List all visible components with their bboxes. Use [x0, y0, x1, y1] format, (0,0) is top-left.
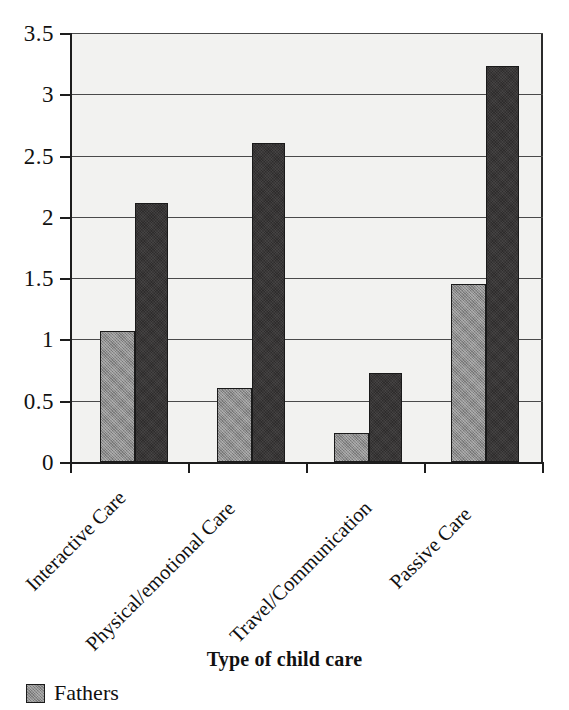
y-tick-mark-2	[60, 217, 70, 219]
x-tick-mark-4	[542, 462, 544, 473]
legend-label-fathers: Fathers	[54, 682, 119, 704]
bar-chart-figure: 3.5 3 2.5 2 1.5 1 0.5 0 Interactive Care…	[0, 0, 569, 710]
gridline-3	[70, 94, 543, 95]
bar-series2-travel-communication	[369, 373, 402, 463]
x-tick-mark-2	[306, 462, 308, 473]
gridline-2-5	[70, 156, 543, 157]
y-tick-label-2-5: 2.5	[24, 145, 54, 168]
x-tick-mark-1	[188, 462, 190, 473]
x-category-label-passive-care: Passive Care	[386, 504, 475, 593]
y-tick-mark-3	[60, 94, 70, 96]
y-tick-label-1-5: 1.5	[24, 267, 54, 290]
x-axis-title: Type of child care	[0, 648, 569, 671]
plot-area	[70, 33, 543, 462]
y-tick-mark-2-5	[60, 156, 70, 158]
y-tick-label-0: 0	[42, 451, 54, 474]
x-category-label-travel-communication: Travel/Communication	[226, 497, 375, 646]
y-tick-mark-1	[60, 339, 70, 341]
x-tick-mark-0	[70, 462, 72, 473]
gridline-3-5	[70, 33, 543, 34]
y-tick-mark-0	[60, 462, 70, 464]
bar-series2-passive-care	[486, 66, 519, 462]
bar-series2-interactive-care	[135, 203, 168, 462]
bar-fathers-passive-care	[451, 284, 486, 462]
bar-fathers-physical-emotional-care	[217, 388, 252, 462]
x-category-label-interactive-care: Interactive Care	[22, 487, 129, 594]
y-tick-mark-0-5	[60, 401, 70, 403]
y-tick-label-3-5: 3.5	[24, 22, 54, 45]
y-tick-label-1: 1	[42, 328, 54, 351]
y-tick-label-3: 3	[42, 83, 54, 106]
chart-legend: Fathers	[26, 682, 119, 704]
bar-fathers-travel-communication	[334, 433, 369, 462]
bar-series2-physical-emotional-care	[252, 143, 285, 462]
y-tick-mark-3-5	[60, 33, 70, 35]
y-tick-label-2: 2	[42, 206, 54, 229]
legend-swatch-fathers	[26, 684, 45, 703]
y-axis-line	[70, 33, 72, 462]
y-tick-mark-1-5	[60, 278, 70, 280]
x-tick-mark-3	[424, 462, 426, 473]
y-tick-label-0-5: 0.5	[24, 390, 54, 413]
bar-fathers-interactive-care	[100, 331, 135, 462]
